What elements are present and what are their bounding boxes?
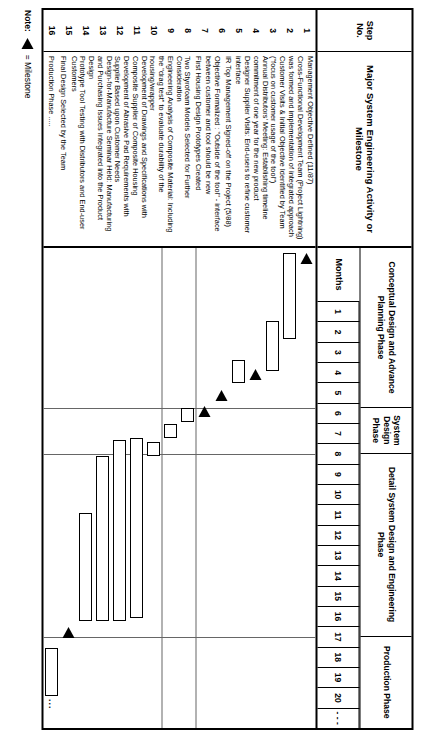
activity-label: Annual Distributors' Meeting: Establishi… <box>250 56 267 242</box>
step-number-label: 13 <box>98 26 108 35</box>
activity-label: Engineering Analysis of Composite Materi… <box>147 56 173 242</box>
activity-label: Customer Visits & Initial Objective Iden… <box>268 56 285 242</box>
milestone-triangle-icon <box>21 38 33 49</box>
month-tick-label: 8 <box>333 452 343 457</box>
step-number-label: 9 <box>166 28 176 33</box>
milestone-marker-step-1[interactable] <box>301 253 313 264</box>
milestone-marker-step-6[interactable] <box>216 390 228 401</box>
step-number-label: 12 <box>115 26 125 35</box>
header-timeline: Conceptual Design and Advance Planning P… <box>317 248 411 728</box>
gantt-bar-trailing-dots: ... <box>47 699 57 710</box>
step-number-label: 7 <box>200 28 210 33</box>
step-number-cell: 3 <box>264 10 281 51</box>
month-tick-18: 18 <box>317 648 359 668</box>
month-tick-label: 19 <box>333 673 343 682</box>
step-number-cell: 11 <box>128 10 145 51</box>
step-number-cell: 10 <box>145 10 162 51</box>
month-tick-label: 12 <box>333 531 343 540</box>
phase-header-1: Conceptual Design and Advance Planning P… <box>360 248 411 408</box>
gantt-bar-step-9[interactable] <box>164 424 177 438</box>
step-number-label: 5 <box>234 28 244 33</box>
gantt-lane-step-3 <box>264 248 281 728</box>
month-tick-row: 1234567891011121314151617181920- - - <box>317 302 359 728</box>
step-number-label: 10 <box>149 26 159 35</box>
gantt-lane-step-1 <box>298 248 315 728</box>
months-row: Months 1234567891011121314151617181920- … <box>317 248 359 728</box>
gantt-bar-step-11[interactable] <box>130 438 143 619</box>
month-tick-13: 13 <box>317 546 359 566</box>
month-tick-label: 20 <box>333 693 343 702</box>
gantt-bar-step-12[interactable] <box>113 440 126 621</box>
note-label: Note: <box>22 10 32 32</box>
month-tick-6: 6 <box>317 404 359 424</box>
gantt-bar-step-3[interactable] <box>266 321 279 371</box>
header-activity-label: Major System Engineering Activity or Mil… <box>353 58 376 240</box>
month-tick-label: 4 <box>333 370 343 375</box>
milestone-marker-step-15[interactable] <box>63 627 75 638</box>
activity-column: Management Objective Defined (11/87)Cros… <box>43 52 315 248</box>
gantt-bar-step-2[interactable] <box>283 253 296 340</box>
gantt-lane-step-5 <box>230 248 247 728</box>
step-number-cell: 4 <box>247 10 264 51</box>
month-tick-label: 7 <box>333 431 343 436</box>
activity-label: Objective Formalized : "Outside of the t… <box>203 56 220 242</box>
month-tick-label: 16 <box>333 612 343 621</box>
step-number-cell: 7 <box>196 10 213 51</box>
gantt-bar-step-5[interactable] <box>232 360 245 383</box>
gantt-lane-step-14 <box>77 248 94 728</box>
month-tick-4: 4 <box>317 363 359 383</box>
gantt-bar-step-13[interactable] <box>96 456 109 621</box>
month-tick-label: - - - <box>333 712 343 725</box>
gantt-lane-step-12 <box>111 248 128 728</box>
table-row: Two Styrofoam Models Selected for Furthe… <box>173 52 190 246</box>
table-row: Prototype Tool Testing with Distributors… <box>68 52 85 246</box>
gantt-lane-step-4 <box>247 248 264 728</box>
step-number-label: 11 <box>132 26 142 35</box>
milestone-marker-step-7[interactable] <box>199 406 211 417</box>
table-row: Development of Drawings and Specificatio… <box>129 52 146 246</box>
header-activity: Major System Engineering Activity or Mil… <box>317 52 411 248</box>
month-tick-label: 13 <box>333 551 343 560</box>
month-tick-16: 16 <box>317 607 359 627</box>
months-axis-label: Months <box>317 248 359 302</box>
table-body: 12345678910111213141516 Management Objec… <box>43 10 315 728</box>
step-number-cell: 15 <box>60 10 77 51</box>
step-number-cell: 13 <box>94 10 111 51</box>
step-number-label: 3 <box>268 28 278 33</box>
month-tick-7: 7 <box>317 424 359 444</box>
table-row: Development of Abrasive Pad Requirements… <box>112 52 129 246</box>
month-tick-8: 8 <box>317 444 359 464</box>
month-tick-label: 6 <box>333 411 343 416</box>
gantt-lane-step-10 <box>145 248 162 728</box>
gantt-lane-step-6 <box>213 248 230 728</box>
phase-header-4: Production Phase <box>360 637 411 728</box>
gantt-bar-step-14[interactable] <box>79 513 92 620</box>
gantt-bar-step-10[interactable] <box>147 442 160 456</box>
month-tick-label: 3 <box>333 350 343 355</box>
month-tick-1: 1 <box>317 302 359 322</box>
step-number-column: 12345678910111213141516 <box>43 10 315 52</box>
table-row: Cross-Functional Development Team (Proje… <box>285 52 302 246</box>
month-tick-label: 5 <box>333 391 343 396</box>
rotated-page-wrapper: StepNo. Major System Engineering Activit… <box>0 0 443 754</box>
activity-label: Development of Drawings and Specificatio… <box>129 56 146 242</box>
month-tick-label: 11 <box>333 510 343 519</box>
gantt-lane-step-13 <box>94 248 111 728</box>
month-tick-19: 19 <box>317 668 359 688</box>
milestone-marker-step-4[interactable] <box>250 369 262 380</box>
header-step-no-label: StepNo. <box>354 21 375 41</box>
step-number-label: 15 <box>64 26 74 35</box>
step-number-label: 6 <box>217 28 227 33</box>
month-tick-21: - - - <box>317 709 359 728</box>
month-tick-label: 2 <box>333 330 343 335</box>
gantt-lane-step-16: ... <box>43 248 60 728</box>
gantt-lane-step-2 <box>281 248 298 728</box>
month-tick-label: 14 <box>333 571 343 580</box>
month-tick-12: 12 <box>317 526 359 546</box>
gantt-bar-step-8[interactable] <box>181 408 194 422</box>
step-number-cell: 14 <box>77 10 94 51</box>
gantt-bar-step-16[interactable] <box>45 648 58 696</box>
phase-header-label: Conceptual Design and Advance Planning P… <box>375 251 395 404</box>
table-row: First Housing Design Prototypes Created <box>190 52 202 246</box>
step-number-label: 8 <box>183 28 193 33</box>
